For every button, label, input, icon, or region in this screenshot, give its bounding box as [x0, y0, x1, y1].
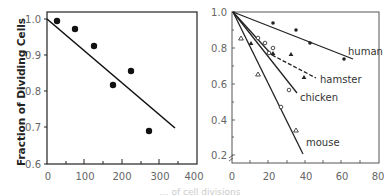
human-label: human [348, 46, 383, 57]
hamster-label: hamster [320, 74, 362, 85]
left-y-tick-label: 0.6 [25, 159, 41, 170]
right-y-tick-label: 0.2 [211, 150, 227, 161]
data-point [239, 36, 244, 40]
hamster-line-dashed [272, 55, 316, 78]
data-point [249, 41, 254, 45]
right-x-tick-label: 40 [300, 171, 313, 182]
data-point [271, 46, 275, 50]
data-point [267, 51, 271, 55]
left-y-axis-label: Fraction of Dividing Cells [15, 18, 27, 166]
data-point [263, 41, 267, 45]
chicken-label: chicken [300, 92, 338, 103]
left-x-tick-label: 300 [150, 171, 169, 182]
left-x-tick-label: 200 [112, 171, 131, 182]
data-point [287, 88, 291, 92]
left-x-ticks [66, 159, 178, 164]
data-point [294, 128, 299, 132]
right-y-tick-label: 1.0 [211, 7, 227, 18]
right-x-tick-label: 20 [263, 171, 276, 182]
data-point [54, 18, 60, 24]
data-point [294, 28, 298, 32]
right-x-tick-label: 80 [372, 171, 385, 182]
right-y-tick-label: 0.4 [211, 115, 227, 126]
left-plot-frame [47, 12, 197, 164]
caption-fragment: … of cell divisions [160, 187, 241, 196]
data-point [302, 75, 307, 79]
data-point [289, 52, 294, 56]
right-x-tick-label: 60 [336, 171, 349, 182]
left-x-tick-label: 0 [45, 171, 51, 182]
data-point [128, 68, 134, 74]
left-x-tick-label: 400 [184, 171, 203, 182]
left-x-tick-label: 100 [75, 171, 94, 182]
data-point [72, 26, 78, 32]
data-point [91, 43, 97, 49]
data-point [110, 82, 116, 88]
left-y-tick-label: 1.0 [25, 14, 41, 25]
data-point [279, 105, 283, 109]
right-x-tick-label: 0 [229, 171, 235, 182]
figure: 1.0 0.9 0.8 0.7 0.6 0 100 200 300 400 Fr… [0, 0, 391, 196]
data-point [146, 128, 152, 134]
left-fit-line [47, 19, 175, 128]
left-y-tick-label: 0.7 [25, 122, 41, 133]
left-y-tick-label: 0.9 [25, 50, 41, 61]
right-y-tick-label: 0.6 [211, 79, 227, 90]
right-chart: 1.0 0.8 0.6 0.4 0.2 0 20 40 60 80 [211, 7, 384, 182]
mouse-label: mouse [306, 137, 340, 148]
right-y-tick-label: 0.8 [211, 43, 227, 54]
data-point [271, 21, 275, 25]
data-point [256, 36, 260, 40]
data-point [308, 41, 312, 45]
data-point [271, 51, 276, 55]
left-y-tick-label: 0.8 [25, 86, 41, 97]
mouse-line [233, 12, 303, 154]
left-chart: 1.0 0.9 0.8 0.7 0.6 0 100 200 300 400 Fr… [15, 12, 204, 182]
data-point [256, 72, 261, 76]
left-data-points [54, 18, 152, 134]
data-point [342, 57, 346, 61]
